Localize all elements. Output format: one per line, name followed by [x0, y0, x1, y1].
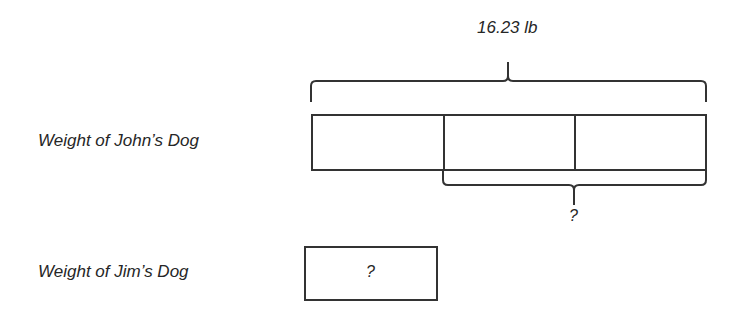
jim-tape-box: ?	[304, 246, 438, 301]
jim-dog-label: Weight of Jim’s Dog	[38, 262, 189, 282]
john-dog-label: Weight of John’s Dog	[38, 131, 199, 151]
john-tape-segment-2	[443, 114, 576, 171]
partial-brace	[443, 170, 706, 205]
partial-brace-label: ?	[569, 207, 578, 225]
total-brace	[311, 62, 706, 102]
total-weight-label: 16.23 lb	[477, 18, 538, 38]
jim-box-label: ?	[366, 263, 375, 281]
john-tape-segment-3	[574, 114, 707, 171]
john-tape-segment-1	[311, 114, 445, 171]
